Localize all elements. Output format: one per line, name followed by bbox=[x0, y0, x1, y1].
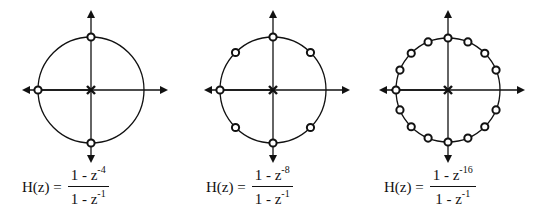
fraction-bar bbox=[68, 186, 109, 187]
numerator-base: 1 - z bbox=[255, 167, 282, 183]
fraction: 1 - z-8 1 - z-1 bbox=[252, 168, 293, 207]
zero-marker bbox=[464, 38, 471, 45]
transfer-function-n4: H(z) = 1 - z-4 1 - z-1 bbox=[22, 168, 109, 207]
pole-zero-plot-n4 bbox=[24, 12, 166, 161]
denominator: 1 - z-1 bbox=[68, 192, 109, 207]
zero-marker bbox=[269, 33, 276, 40]
zero-marker bbox=[408, 50, 415, 57]
zero-marker bbox=[232, 124, 239, 131]
numerator-exponent: -4 bbox=[97, 164, 105, 175]
zero-marker bbox=[87, 33, 94, 40]
numerator-base: 1 - z bbox=[433, 167, 460, 183]
denominator-base: 1 - z bbox=[435, 191, 462, 207]
fraction-bar bbox=[430, 186, 476, 187]
numerator: 1 - z-4 bbox=[68, 168, 109, 183]
zero-marker bbox=[34, 86, 41, 93]
numerator-exponent: -16 bbox=[459, 164, 472, 175]
formula-lhs: H(z) = bbox=[22, 180, 62, 195]
zero-marker bbox=[396, 67, 403, 74]
zero-marker bbox=[481, 50, 488, 57]
numerator: 1 - z-8 bbox=[252, 168, 293, 183]
zero-marker bbox=[392, 86, 399, 93]
zero-marker bbox=[269, 139, 276, 146]
fraction: 1 - z-4 1 - z-1 bbox=[68, 168, 109, 207]
transfer-function-n16: H(z) = 1 - z-16 1 - z-1 bbox=[384, 168, 476, 207]
formula-lhs: H(z) = bbox=[384, 180, 424, 195]
denominator-base: 1 - z bbox=[255, 191, 282, 207]
zero-marker bbox=[232, 49, 239, 56]
denominator-exponent: -1 bbox=[462, 188, 470, 199]
zero-marker bbox=[307, 124, 314, 131]
denominator-exponent: -1 bbox=[281, 188, 289, 199]
denominator: 1 - z-1 bbox=[432, 192, 473, 207]
zero-marker bbox=[464, 134, 471, 141]
zero-marker bbox=[492, 67, 499, 74]
zero-marker bbox=[444, 34, 451, 41]
zero-marker bbox=[481, 123, 488, 130]
pole-zero-plot-n8 bbox=[206, 12, 348, 161]
zero-marker bbox=[408, 123, 415, 130]
fraction: 1 - z-16 1 - z-1 bbox=[430, 168, 476, 207]
pole-zero-plot-n16 bbox=[381, 12, 523, 161]
zero-marker bbox=[425, 134, 432, 141]
denominator-base: 1 - z bbox=[71, 191, 98, 207]
formula-lhs: H(z) = bbox=[206, 180, 246, 195]
fraction-bar bbox=[252, 186, 293, 187]
numerator-exponent: -8 bbox=[281, 164, 289, 175]
zero-marker bbox=[216, 86, 223, 93]
zero-marker bbox=[444, 138, 451, 145]
zero-marker bbox=[492, 106, 499, 113]
numerator: 1 - z-16 bbox=[430, 168, 476, 183]
zero-marker bbox=[425, 38, 432, 45]
zero-marker bbox=[87, 139, 94, 146]
zero-marker bbox=[396, 106, 403, 113]
denominator: 1 - z-1 bbox=[252, 192, 293, 207]
transfer-function-n8: H(z) = 1 - z-8 1 - z-1 bbox=[206, 168, 293, 207]
zero-marker bbox=[307, 49, 314, 56]
numerator-base: 1 - z bbox=[71, 167, 98, 183]
denominator-exponent: -1 bbox=[97, 188, 105, 199]
